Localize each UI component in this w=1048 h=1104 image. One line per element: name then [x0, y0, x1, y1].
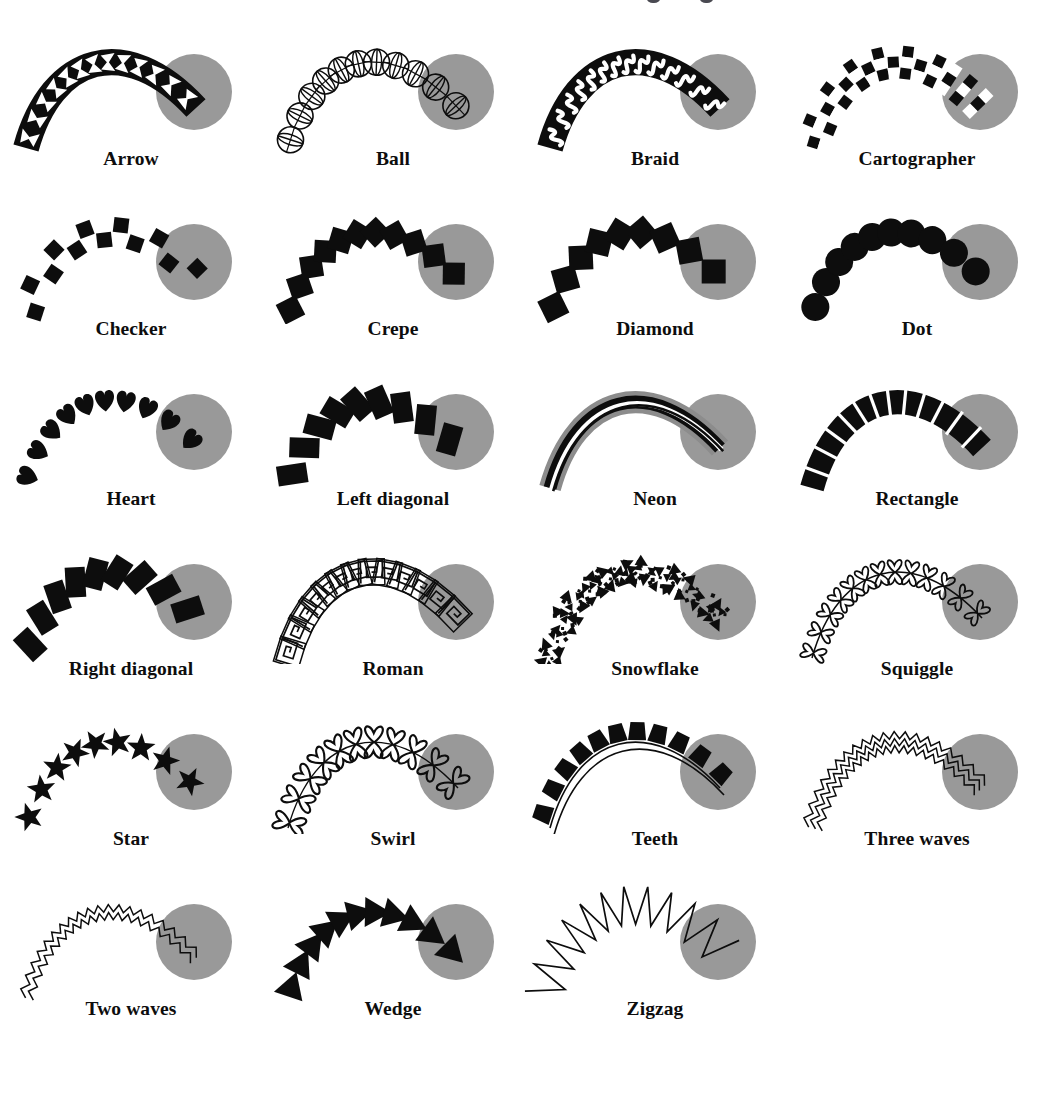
brush-specimen-wedge: Wedge [262, 864, 524, 1034]
brush-label-zigzag: Zigzag [524, 998, 786, 1020]
brush-specimen-rectangle: Rectangle [786, 354, 1048, 524]
brush-art-dot [786, 184, 1048, 324]
top-cropped-heading-remnant [0, 0, 1048, 14]
brush-specimen-two-waves: Two waves [0, 864, 262, 1034]
brush-art-teeth [524, 694, 786, 834]
brush-art-rectangle [786, 354, 1048, 494]
brush-specimen-roman: Roman [262, 524, 524, 694]
brush-art-left-diagonal [262, 354, 524, 494]
brush-label-roman: Roman [262, 658, 524, 680]
brush-label-arrow: Arrow [0, 148, 262, 170]
brush-specimen-ball: Ball [262, 14, 524, 184]
brush-label-diamond: Diamond [524, 318, 786, 340]
brush-specimen-braid: Braid [524, 14, 786, 184]
brush-art-ball [262, 14, 524, 154]
brush-art-star [0, 694, 262, 834]
brush-label-right-diagonal: Right diagonal [0, 658, 262, 680]
cropped-glyph-remnant-1 [700, 0, 713, 3]
brush-specimen-arrow: Arrow [0, 14, 262, 184]
brush-specimen-cartographer: Cartographer [786, 14, 1048, 184]
brush-art-wedge [262, 864, 524, 1004]
brush-specimen-dot: Dot [786, 184, 1048, 354]
brush-specimen-checker: Checker [0, 184, 262, 354]
brush-specimen-squiggle: Squiggle [786, 524, 1048, 694]
grid-cell-empty [786, 864, 1048, 1034]
cropped-glyph-remnant-0 [647, 0, 660, 3]
brush-art-diamond [524, 184, 786, 324]
brush-specimen-right-diagonal: Right diagonal [0, 524, 262, 694]
brush-specimen-zigzag: Zigzag [524, 864, 786, 1034]
brush-art-snowflake [524, 524, 786, 664]
brush-label-checker: Checker [0, 318, 262, 340]
brush-art-squiggle [786, 524, 1048, 664]
brush-specimen-teeth: Teeth [524, 694, 786, 864]
brush-label-heart: Heart [0, 488, 262, 510]
brush-art-roman [262, 524, 524, 664]
brush-specimen-crepe: Crepe [262, 184, 524, 354]
brush-label-three-waves: Three waves [786, 828, 1048, 850]
brush-specimen-heart: Heart [0, 354, 262, 524]
brush-label-left-diagonal: Left diagonal [262, 488, 524, 510]
brush-specimen-neon: Neon [524, 354, 786, 524]
brush-label-snowflake: Snowflake [524, 658, 786, 680]
brush-label-swirl: Swirl [262, 828, 524, 850]
brush-art-zigzag [524, 864, 786, 1004]
brush-specimen-three-waves: Three waves [786, 694, 1048, 864]
brush-art-arrow [0, 14, 262, 154]
brush-style-chart: ArrowBallBraidCartographerCheckerCrepeDi… [0, 0, 1048, 1104]
brush-specimen-diamond: Diamond [524, 184, 786, 354]
brush-specimen-swirl: Swirl [262, 694, 524, 864]
brush-label-braid: Braid [524, 148, 786, 170]
brush-art-two-waves [0, 864, 262, 1004]
brush-art-swirl [262, 694, 524, 834]
brush-label-squiggle: Squiggle [786, 658, 1048, 680]
brush-art-braid [524, 14, 786, 154]
brush-specimen-star: Star [0, 694, 262, 864]
brush-label-dot: Dot [786, 318, 1048, 340]
brush-art-heart [0, 354, 262, 494]
brush-art-cartographer [786, 14, 1048, 154]
brush-art-right-diagonal [0, 524, 262, 664]
brush-art-crepe [262, 184, 524, 324]
brush-label-ball: Ball [262, 148, 524, 170]
brush-art-checker [0, 184, 262, 324]
brush-label-two-waves: Two waves [0, 998, 262, 1020]
brush-specimen-left-diagonal: Left diagonal [262, 354, 524, 524]
brush-style-grid: ArrowBallBraidCartographerCheckerCrepeDi… [0, 14, 1048, 1034]
brush-specimen-snowflake: Snowflake [524, 524, 786, 694]
brush-label-teeth: Teeth [524, 828, 786, 850]
brush-label-rectangle: Rectangle [786, 488, 1048, 510]
brush-label-crepe: Crepe [262, 318, 524, 340]
brush-art-three-waves [786, 694, 1048, 834]
brush-art-neon [524, 354, 786, 494]
brush-label-cartographer: Cartographer [786, 148, 1048, 170]
brush-label-star: Star [0, 828, 262, 850]
brush-label-wedge: Wedge [262, 998, 524, 1020]
brush-label-neon: Neon [524, 488, 786, 510]
